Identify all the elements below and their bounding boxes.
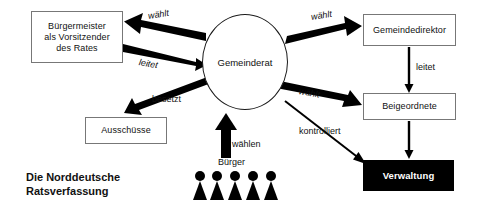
edge-label-kontrolliert: kontrolliert [299, 126, 341, 136]
node-gemeinderat[interactable]: Gemeinderat [202, 14, 288, 110]
diagram-canvas: Bürgermeister als Vorsitzender des Rates… [0, 0, 479, 210]
edge-waehlt-gemeindedirektor [285, 16, 362, 44]
node-buergermeister-line1: Bürgermeister [48, 21, 106, 31]
page-title-line2: Ratsverfassung [26, 185, 109, 197]
edge-leitet-buergermeister [123, 44, 207, 71]
node-beigeordnete[interactable]: Beigeordnete [363, 93, 456, 120]
edge-beigeordnete-verwaltung [405, 121, 414, 159]
node-buergermeister-line2: als Vorsitzender [44, 32, 110, 42]
node-verwaltung-label: Verwaltung [383, 170, 435, 181]
node-gemeindedirektor-label: Gemeindedirektor [373, 25, 446, 36]
edge-label-waehlen: wählen [232, 139, 261, 149]
node-ausschuesse[interactable]: Ausschüsse [85, 117, 167, 144]
edge-leitet-gemeindedirektor [405, 47, 414, 93]
node-beigeordnete-label: Beigeordnete [382, 101, 437, 112]
node-gemeinderat-label: Gemeinderat [218, 57, 273, 68]
node-buergermeister[interactable]: Bürgermeister als Vorsitzender des Rates [31, 11, 123, 63]
edge-label-leitet-gemeindedirektor: leitet [416, 62, 435, 72]
node-buergermeister-line3: des Rates [56, 43, 97, 53]
page-title: Die Norddeutsche Ratsverfassung [26, 170, 196, 198]
node-buergermeister-label: Bürgermeister als Vorsitzender des Rates [44, 21, 110, 54]
node-buerger-label: Bürger [218, 157, 245, 167]
edge-waehlen [215, 113, 237, 158]
page-title-line1: Die Norddeutsche [26, 171, 120, 183]
node-ausschuesse-label: Ausschüsse [101, 125, 151, 136]
node-gemeindedirektor[interactable]: Gemeindedirektor [363, 14, 456, 46]
buerger-people-icon [192, 170, 284, 201]
edge-label-besetzt: besetzt [152, 94, 181, 104]
node-verwaltung[interactable]: Verwaltung [363, 160, 454, 191]
